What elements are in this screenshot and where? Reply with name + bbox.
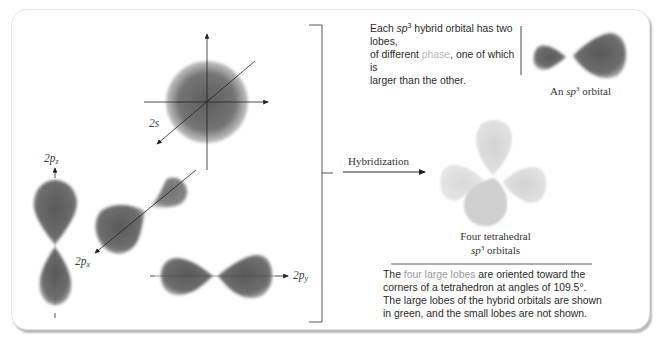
orbital-2s — [144, 34, 268, 170]
sp3-small-lobe — [534, 46, 566, 70]
orbital-2pz — [34, 168, 77, 318]
label-2pz: 2pz — [44, 152, 59, 166]
pz-upper-lobe — [34, 180, 77, 245]
bottom-note: The four large lobes are oriented toward… — [383, 268, 605, 320]
sp3-large-lobe — [573, 33, 626, 78]
sp3-orbital — [534, 33, 626, 78]
orbital-2py — [150, 255, 288, 298]
hybrid-lobe-top — [476, 120, 512, 175]
lobes-highlight: four large lobes — [404, 269, 476, 280]
label-2s: 2s — [149, 117, 159, 129]
bracket — [309, 25, 333, 322]
tetrahedral-orbitals — [440, 120, 546, 226]
tetrahedral-caption: Four tetrahedral sp3 orbitals — [443, 229, 548, 257]
label-2px: 2px — [75, 255, 90, 269]
phase-highlight: phase — [422, 49, 450, 60]
py-right-lobe — [218, 255, 272, 298]
top-note: Each sp3 hybrid orbital has two lobes, o… — [370, 22, 520, 87]
py-left-lobe — [161, 258, 213, 295]
hybrid-lobe-right — [503, 167, 546, 203]
label-2py: 2py — [293, 269, 308, 283]
sp3-orbital-caption: An sp3 orbital — [550, 85, 611, 97]
hybridization-label: Hybridization — [348, 155, 409, 167]
orbital-2px — [95, 170, 196, 254]
pz-lower-lobe — [40, 247, 72, 305]
